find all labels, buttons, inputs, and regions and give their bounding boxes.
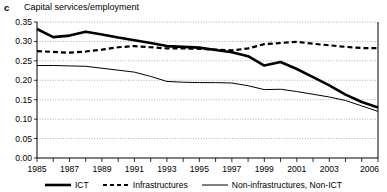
line-chart: 0.000.050.100.150.200.250.300.35 1985198… [0, 14, 387, 174]
gridlines [37, 22, 378, 139]
x-axis-ticks: 1985198719891991199319951997199920012003… [27, 158, 379, 174]
y-axis-ticks: 0.000.050.100.150.200.250.300.35 [15, 17, 37, 163]
panel-letter: c [4, 2, 9, 13]
y-axis-tick-label: 0.20 [15, 75, 32, 85]
page-title: Capital services/employment [24, 2, 139, 13]
figure-panel-c: c Capital services/employment 0.000.050.… [0, 0, 387, 192]
legend-label: Non-infrastructures, Non-ICT [232, 180, 342, 190]
y-axis-tick-label: 0.35 [15, 17, 32, 27]
y-axis-tick-label: 0.30 [15, 36, 32, 46]
y-axis-tick-label: 0.10 [15, 114, 32, 124]
legend-swatch-dashed [103, 181, 129, 189]
legend-label: Infrastructures [133, 180, 188, 190]
plot-area: 0.000.050.100.150.200.250.300.35 1985198… [0, 14, 387, 174]
y-axis-tick-label: 0.25 [15, 56, 32, 66]
series-line-non-infrastructures-non-ict [37, 66, 378, 112]
data-series [37, 29, 378, 111]
series-line-ict [37, 29, 378, 108]
y-axis-tick-label: 0.15 [15, 95, 32, 105]
legend-swatch-solid-thin [202, 181, 228, 189]
series-line-infrastructures [37, 42, 378, 53]
y-axis-tick-label: 0.00 [15, 153, 32, 163]
legend-item[interactable]: Infrastructures [103, 180, 188, 190]
legend-label: ICT [75, 180, 89, 190]
legend-item[interactable]: ICT [45, 180, 89, 190]
chart-legend: ICTInfrastructuresNon-infrastructures, N… [0, 173, 387, 192]
legend-item[interactable]: Non-infrastructures, Non-ICT [202, 180, 342, 190]
y-axis-tick-label: 0.05 [15, 134, 32, 144]
legend-swatch-solid-thick [45, 181, 71, 189]
axis-lines [37, 22, 378, 158]
